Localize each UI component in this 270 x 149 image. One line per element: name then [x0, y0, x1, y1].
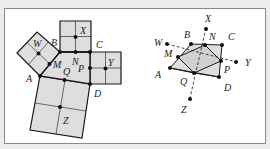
- label-d-right: D: [223, 82, 232, 93]
- label-z-right: Z: [181, 104, 187, 115]
- label-m: M: [52, 59, 62, 70]
- label-w-right: W: [154, 37, 164, 48]
- label-y-right: Y: [245, 57, 252, 68]
- label-n-right: N: [208, 31, 217, 42]
- label-a: A: [25, 73, 33, 84]
- geometry-diagram: X W B C Y N M Q P A D Z X B N C W: [0, 0, 270, 149]
- label-x: X: [79, 25, 87, 36]
- label-b: B: [51, 37, 57, 48]
- label-p-right: P: [223, 64, 230, 75]
- label-c-right: C: [228, 31, 235, 42]
- label-a-right: A: [154, 69, 162, 80]
- label-m-right: M: [163, 48, 173, 59]
- label-x-right: X: [204, 13, 212, 24]
- label-b-right: B: [184, 29, 190, 40]
- label-p: P: [77, 63, 84, 74]
- label-z: Z: [63, 115, 69, 126]
- label-d: D: [93, 88, 102, 99]
- label-c: C: [96, 39, 103, 50]
- label-q-right: Q: [180, 76, 188, 87]
- label-q: Q: [63, 66, 71, 77]
